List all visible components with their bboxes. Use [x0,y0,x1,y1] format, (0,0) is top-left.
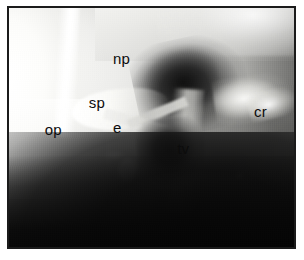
annotation-label-sp: sp [89,95,105,110]
xr-cricoid-bright-patch-2 [246,83,294,123]
annotation-label-op: op [45,122,62,137]
xr-bright-fleck [234,171,245,182]
figure-root: npspopetvcr [0,0,304,260]
xr-inferior-dark-gradient [9,156,294,247]
xr-cricoid-body-shadow [186,104,294,176]
annotation-label-tv: tv [177,141,189,156]
annotation-label-e: e [113,120,122,135]
xr-anterior-profile-ramp [9,99,106,233]
xr-vocal-cord-airway [134,115,209,189]
xr-anterior-bright-column [55,8,81,137]
xr-tooth-radiopacity [112,155,142,189]
xr-cricoid-bright-patch [211,70,294,128]
xr-skull-base-highlight [157,8,294,56]
xr-nasopharyngeal-airway [126,26,257,143]
xr-anterior-soft-tissue [9,8,123,199]
xr-nasopharyngeal-airway-core [139,42,227,122]
annotation-label-np: np [113,51,130,66]
xr-inferior-dark-mass [9,132,294,247]
xr-hyoid-strut [126,97,188,129]
xr-tooth-neck-opacity [97,147,131,164]
annotation-label-cr: cr [254,104,267,119]
radiograph-frame: npspopetvcr [7,6,296,249]
